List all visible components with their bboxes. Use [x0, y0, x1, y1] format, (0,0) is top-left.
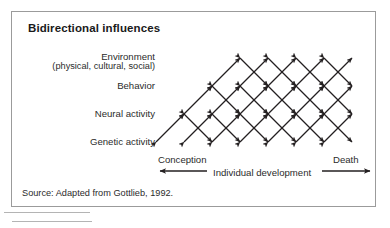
figure-title: Bidirectional influences	[28, 22, 160, 34]
under-rule-upper	[4, 212, 90, 213]
bidirectional-influence-lattice	[150, 48, 370, 152]
lattice-lines	[156, 58, 352, 142]
level-label-genetic-activity: Genetic activity	[90, 136, 155, 147]
level-label-environment-detail: (physical, cultural, social)	[52, 61, 155, 72]
level-label-neural-activity: Neural activity	[95, 108, 155, 119]
timeline-arrows	[150, 163, 375, 179]
under-rule-lower	[12, 221, 92, 222]
figure-root: Bidirectional influences Environment (ph…	[0, 0, 390, 228]
source-note: Source: Adapted from Gottlieb, 1992.	[22, 188, 173, 198]
